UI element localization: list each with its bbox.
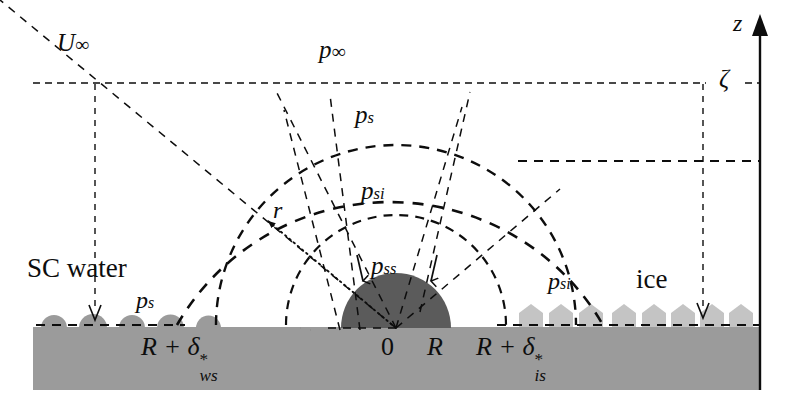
ice-crystal — [612, 304, 636, 327]
label-r-vector: r — [273, 198, 282, 222]
label-ps-outer-arc: ps — [355, 102, 374, 127]
label-dome-radius: R — [427, 334, 443, 360]
radial-spoke-right-1 — [420, 92, 470, 312]
label-psi-middle-arc: psi — [361, 178, 385, 203]
pss-arrow-right — [431, 255, 437, 281]
label-ps-left: ps — [136, 288, 154, 312]
label-free-stream-velocity: U∞ — [57, 30, 89, 55]
ice-crystal-group — [519, 304, 753, 327]
label-sc-water-region: SC water — [27, 255, 127, 282]
label-origin: 0 — [381, 334, 394, 360]
ice-crystal — [671, 304, 695, 327]
central-dome — [341, 273, 451, 328]
label-ice-region: ice — [636, 266, 667, 293]
label-psi-right: psi — [548, 269, 571, 293]
ice-crystal — [729, 304, 753, 327]
radial-spoke-left — [284, 110, 340, 330]
label-ice-side-extent: R + δ * is — [476, 334, 535, 360]
radial-spoke-mid — [330, 95, 360, 330]
ice-crystal — [579, 304, 603, 327]
label-z-axis: z — [733, 11, 742, 35]
up-arrow-icon — [752, 14, 768, 36]
ice-crystal — [519, 304, 543, 327]
water-droplet — [41, 315, 67, 328]
pss-arrow-left — [357, 255, 363, 281]
water-droplet — [119, 315, 145, 328]
label-zeta: ζ — [719, 66, 729, 91]
ice-crystal — [549, 304, 573, 327]
figure-canvas: U∞ p∞ ζ z ps psi pss r SC water ps psi i… — [0, 0, 794, 411]
label-water-side-extent: R + δ * ws — [141, 334, 200, 360]
diagram-svg — [0, 0, 794, 411]
label-pss-dome: pss — [371, 253, 396, 278]
ice-crystal — [642, 304, 666, 327]
label-free-stream-pressure: p∞ — [319, 37, 345, 62]
